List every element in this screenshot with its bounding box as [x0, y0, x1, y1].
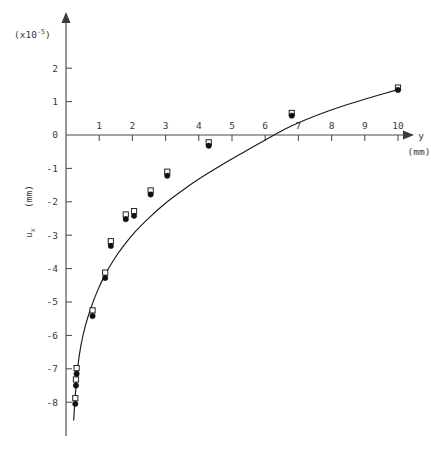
data-point-circle [148, 192, 153, 197]
y-tick-label: -8 [47, 397, 59, 408]
y-tick-label: 1 [52, 96, 58, 107]
data-point-circle [165, 173, 170, 178]
data-point-circle [102, 275, 107, 280]
plot-root: 12345678910 210-1-2-3-4-5-6-7-8 (x10-5) … [0, 0, 431, 451]
data-point-square [90, 308, 95, 313]
y-axis-units: (mm) [23, 185, 34, 208]
y-scale-exponent-label: (x10-5) [14, 28, 51, 40]
y-axis-ticks: 210-1-2-3-4-5-6-7-8 [47, 63, 72, 408]
scatter-plot-figure: 12345678910 210-1-2-3-4-5-6-7-8 (x10-5) … [0, 0, 431, 451]
x-tick-label: 5 [229, 120, 235, 131]
y-axis-subscript: x [29, 228, 37, 232]
data-point-circle [108, 243, 113, 248]
data-point-circle [90, 313, 95, 318]
y-tick-label: -7 [47, 363, 58, 374]
x-tick-label: 8 [329, 120, 335, 131]
x-axis-title: y [418, 130, 424, 141]
data-point-circle [131, 213, 136, 218]
x-tick-label: 3 [163, 120, 169, 131]
x-tick-label: 9 [362, 120, 368, 131]
y-axis-arrowhead [62, 12, 71, 23]
scale-base: (x10 [14, 29, 37, 40]
axes-group [62, 12, 415, 436]
data-point-circle [74, 371, 79, 376]
fitted-curve-path [74, 90, 398, 421]
x-tick-label: 6 [262, 120, 268, 131]
y-tick-label: -2 [47, 196, 58, 207]
data-point-circle [73, 383, 78, 388]
data-point-circle [206, 143, 211, 148]
y-tick-label: -6 [47, 330, 59, 341]
scale-exponent: -5 [37, 28, 45, 36]
data-point-square [74, 366, 79, 371]
x-axis-arrowhead [403, 131, 414, 140]
y-axis-title: ux(mm) [23, 185, 37, 238]
y-axis-title-group: ux(mm) [23, 185, 37, 238]
x-axis-units: (mm) [408, 146, 431, 157]
data-point-circle [289, 113, 294, 118]
data-point-circle [395, 87, 400, 92]
y-tick-label: 2 [52, 63, 58, 74]
x-tick-label: 1 [96, 120, 102, 131]
y-tick-label: -4 [47, 263, 59, 274]
data-point-square [103, 270, 108, 275]
x-tick-label: 4 [196, 120, 202, 131]
x-axis-ticks: 12345678910 [96, 120, 404, 141]
x-tick-label: 10 [392, 120, 404, 131]
scale-close: ) [45, 29, 51, 40]
x-tick-label: 2 [130, 120, 136, 131]
data-point-circle [73, 401, 78, 406]
y-tick-label: -3 [47, 230, 58, 241]
data-point-circle [123, 216, 128, 221]
data-point-square [73, 377, 78, 382]
y-tick-label: -5 [47, 296, 58, 307]
y-tick-label: 0 [52, 129, 58, 140]
data-point-square [73, 396, 78, 401]
open-square-data-markers [73, 85, 401, 401]
y-tick-label: -1 [47, 163, 59, 174]
